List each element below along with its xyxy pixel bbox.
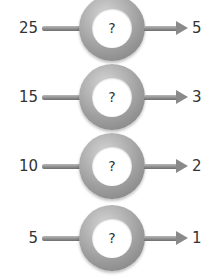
- function-ring: ?: [79, 0, 145, 61]
- input-line: [42, 236, 82, 241]
- mapping-row-1: 25 ? 5: [0, 0, 212, 63]
- mapping-row-3: 10 ? 2: [0, 131, 212, 201]
- function-ring: ?: [79, 133, 145, 199]
- input-value: 15: [0, 87, 38, 107]
- input-line: [42, 26, 82, 31]
- output-line: [144, 236, 178, 241]
- unknown-rule: ?: [92, 8, 132, 48]
- mapping-row-2: 15 ? 3: [0, 62, 212, 132]
- arrow-right-icon: [176, 159, 188, 173]
- output-line: [144, 95, 178, 100]
- unknown-rule: ?: [92, 77, 132, 117]
- input-value: 10: [0, 156, 38, 176]
- unknown-rule: ?: [92, 218, 132, 258]
- mapping-row-4: 5 ? 1: [0, 203, 212, 273]
- output-value: 2: [192, 156, 202, 176]
- function-ring: ?: [79, 64, 145, 130]
- output-line: [144, 164, 178, 169]
- arrow-right-icon: [176, 90, 188, 104]
- arrow-right-icon: [176, 231, 188, 245]
- input-value: 25: [0, 18, 38, 38]
- function-ring: ?: [79, 205, 145, 271]
- input-value: 5: [0, 228, 38, 248]
- input-line: [42, 164, 82, 169]
- output-line: [144, 26, 178, 31]
- output-value: 1: [192, 228, 202, 248]
- output-value: 3: [192, 87, 202, 107]
- arrow-right-icon: [176, 21, 188, 35]
- input-line: [42, 95, 82, 100]
- unknown-rule: ?: [92, 146, 132, 186]
- output-value: 5: [192, 18, 202, 38]
